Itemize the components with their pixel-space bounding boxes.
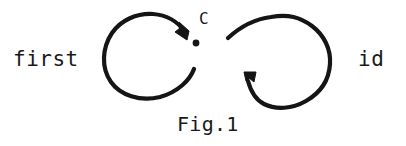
figure-caption: Fig.1: [177, 114, 239, 134]
figure-canvas: first id C Fig.1: [0, 0, 406, 146]
right-loop-path: [228, 16, 330, 108]
label-first: first: [13, 49, 79, 70]
label-id: id: [358, 49, 384, 70]
node-point-c: [193, 40, 200, 47]
label-node-c: C: [199, 11, 209, 27]
